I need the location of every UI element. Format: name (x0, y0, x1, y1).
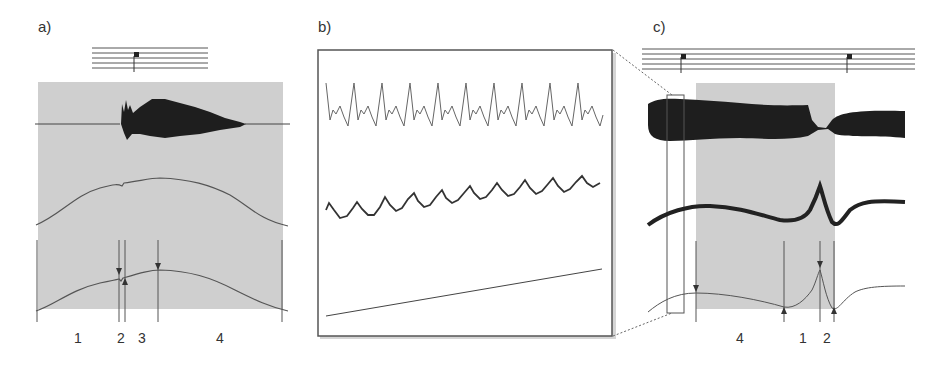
figure-canvas (0, 0, 943, 366)
music-staff-a (92, 48, 208, 68)
segment-number: 2 (117, 330, 125, 346)
segment-number: 3 (138, 330, 146, 346)
segment-number: 4 (736, 330, 744, 346)
segment-number: 1 (74, 330, 82, 346)
panel-b (318, 50, 672, 339)
panel-c (642, 49, 915, 322)
segment-number: 2 (823, 330, 831, 346)
zoom-connector (613, 313, 672, 336)
panel-a (35, 48, 290, 322)
zoom-connector (613, 50, 672, 95)
segment-number: 1 (799, 330, 807, 346)
note-icon (134, 52, 139, 72)
segment-number: 4 (216, 330, 224, 346)
